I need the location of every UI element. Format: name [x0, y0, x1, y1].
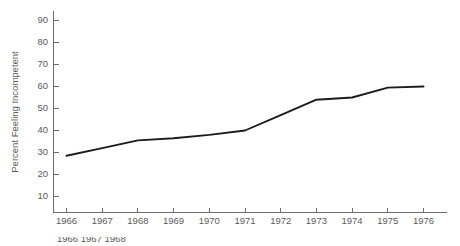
x-tick-label: 1975: [377, 215, 398, 226]
x-tick-label: 1970: [199, 215, 220, 226]
y-tick-label: 20: [37, 168, 48, 179]
x-tick-label: 1967: [92, 215, 113, 226]
chart-background: [0, 0, 460, 246]
x-tick-label: 1971: [234, 215, 255, 226]
y-tick-label: 40: [37, 124, 48, 135]
y-tick-label: 90: [37, 14, 48, 25]
x-tick-label: 1968: [127, 215, 148, 226]
y-axis-tick-labels: 90 80 70 60 50 40 30 20 10: [37, 14, 48, 201]
x-tick-label: 1969: [163, 215, 184, 226]
x-axis-tick-labels: 1966 1967 1968 1969 1970 1971 1972 1973 …: [56, 215, 434, 226]
y-tick-label: 30: [37, 146, 48, 157]
clipped-caption-strip: 1966 1967 1968: [0, 237, 460, 246]
y-axis-title: Percent Feeling Incompetent: [9, 51, 20, 173]
x-tick-label: 1973: [306, 215, 327, 226]
y-tick-label: 70: [37, 58, 48, 69]
y-tick-label: 80: [37, 36, 48, 47]
x-tick-label: 1966: [56, 215, 77, 226]
x-tick-label: 1974: [342, 215, 363, 226]
clipped-caption-text: 1966 1967 1968: [57, 237, 126, 244]
line-chart: 90 80 70 60 50 40 30 20 10 1966: [0, 0, 460, 246]
y-tick-label: 50: [37, 102, 48, 113]
y-tick-label: 10: [37, 190, 48, 201]
x-tick-label: 1976: [413, 215, 434, 226]
chart-figure: 90 80 70 60 50 40 30 20 10 1966: [0, 0, 460, 246]
y-tick-label: 60: [37, 80, 48, 91]
x-tick-label: 1972: [270, 215, 291, 226]
